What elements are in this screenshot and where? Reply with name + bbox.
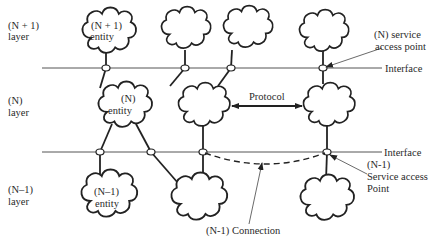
n-plus-1-cloud-2: [162, 7, 211, 49]
layer-label-n-sub: layer: [8, 107, 29, 118]
interface-label-bottom: Interface: [384, 147, 422, 158]
n-plus-1-cloud-3: [224, 6, 273, 48]
n-minus-1-cloud-3: [300, 175, 354, 220]
n-cloud-3: [304, 83, 355, 126]
layer-label-n-minus-1-sub: layer: [8, 196, 29, 207]
n-minus-1-cloud-2: [171, 172, 227, 219]
entity-label-n: (N): [121, 93, 136, 105]
layer-label-n-plus-1-sub: layer: [8, 31, 29, 42]
osi-layer-diagram: (N + 1) layer (N) layer (N–1) layer (N +…: [0, 0, 434, 242]
entity-label-n-minus-1-sub: entity: [95, 198, 120, 209]
n-minus-1-sap-label: (N-1): [367, 159, 391, 171]
n-sap-pointer: [326, 48, 382, 67]
interface-label-top: Interface: [385, 63, 423, 74]
n-minus-1-sap-label-sub: Service access: [367, 171, 428, 182]
layer-label-n: (N): [8, 95, 23, 107]
protocol-label: Protocol: [249, 91, 285, 102]
n-plus-1-cloud-4: [300, 10, 349, 52]
n-minus-1-sap-pointer: [330, 155, 367, 174]
entity-label-n-plus-1-sub: entity: [90, 31, 115, 42]
connection-pointer: [249, 163, 262, 224]
n-sap-label-sub: access point: [375, 41, 426, 52]
connection-label: (N-1) Connection: [206, 225, 281, 237]
n-minus-1-connection-curve: [205, 153, 325, 164]
entity-label-n-minus-1: (N–1): [94, 186, 120, 198]
layer-label-n-minus-1: (N–1): [8, 184, 34, 196]
n-cloud-2: [179, 83, 230, 126]
n-sap-label: (N) service: [374, 29, 421, 41]
entity-label-n-sub: entity: [108, 105, 133, 116]
n-minus-1-sap-label-sub2: Point: [367, 183, 389, 194]
